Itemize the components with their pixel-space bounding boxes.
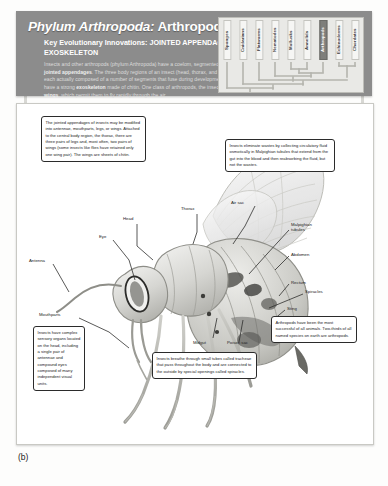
callout-arthropod-success: Arthropods have been the most successful… [271,316,357,343]
cladogram-taxon-flatworms: Flatworms [255,20,263,60]
cladogram-taxon-cnidarians: Cnidarians [239,20,247,60]
cladogram-taxon-echinoderms: Echinoderms [335,20,343,60]
figure-page: Phylum Arthropoda: Arthropods Key Evolut… [0,0,388,486]
label-malpighian-tubules: Malpighian tubules [291,222,319,232]
label-spiracles: Spiracles [305,289,323,294]
figure-caption: (b) [18,452,28,462]
cladogram-taxon-annelids: Annelids [303,20,311,60]
label-abdomen: Abdomen [291,252,309,257]
label-air-sac: Air sac [231,200,244,205]
label-midgut: Midgut [193,340,206,345]
cladogram-tree-icon [219,62,363,92]
cladogram-taxon-mollusks: Mollusks [287,20,295,60]
label-antenna: Antenna [29,258,45,263]
callout-malpighian-tubules: Insects eliminate wastes by collecting c… [225,139,335,172]
callout-tracheae: Insects breathe through small tubes call… [152,352,257,379]
label-thorax: Thorax [181,206,194,211]
label-head: Head [123,216,133,221]
header-banner: Phylum Arthropoda: Arthropods Key Evolut… [16,11,372,96]
cladogram-taxon-arthropods: Arthropods [319,20,327,60]
callout-jointed-appendages: The jointed appendages of insects may be… [41,116,146,162]
label-sting: Sting [287,306,297,311]
label-rectum: Rectum [291,280,306,285]
label-mouthparts: Mouthparts [39,312,61,317]
cladogram-labels: Sponges Cnidarians Flatworms Nematodes M… [219,18,363,64]
cladogram-taxon-nematodes: Nematodes [271,20,279,60]
bee-anatomy-panel: The jointed appendages of insects may be… [16,103,374,445]
cladogram-taxon-chordates: Chordates [351,20,359,60]
page-title: Phylum Arthropoda: Arthropods [28,19,229,34]
cladogram-taxon-sponges: Sponges [223,20,231,60]
label-eye: Eye [99,234,106,239]
callout-sensory-organs: Insects have complex sensory organs loca… [33,326,85,391]
label-poison-sac: Poison sac [227,340,255,345]
cladogram: Sponges Cnidarians Flatworms Nematodes M… [218,17,364,93]
page-title-phylum: Phylum Arthropoda: [28,19,154,34]
